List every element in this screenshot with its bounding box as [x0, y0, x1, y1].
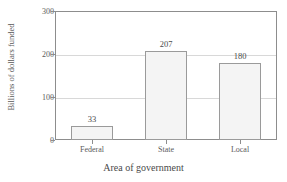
bar-value-label: 207: [160, 39, 173, 49]
x-tick-label-state: State: [158, 145, 174, 154]
bar-local[interactable]: [219, 63, 261, 140]
y-axis-title: Billions of dollars funded: [6, 2, 16, 132]
bar-chart: Billions of dollars funded 0100200300 33…: [0, 0, 287, 182]
bar-value-label: 180: [234, 51, 247, 61]
bar-state[interactable]: [145, 51, 187, 140]
x-tick-label-local: Local: [231, 145, 249, 154]
bar-value-label: 33: [88, 114, 97, 124]
x-tick-mark: [166, 140, 167, 144]
y-tick-mark: [51, 140, 55, 141]
y-tick-mark: [51, 97, 55, 98]
x-tick-label-federal: Federal: [80, 145, 104, 154]
y-tick-mark: [51, 11, 55, 12]
x-tick-mark: [240, 140, 241, 144]
x-tick-mark: [92, 140, 93, 144]
y-tick-mark: [51, 54, 55, 55]
bar-federal[interactable]: [71, 126, 113, 140]
x-axis-title: Area of government: [0, 162, 287, 173]
